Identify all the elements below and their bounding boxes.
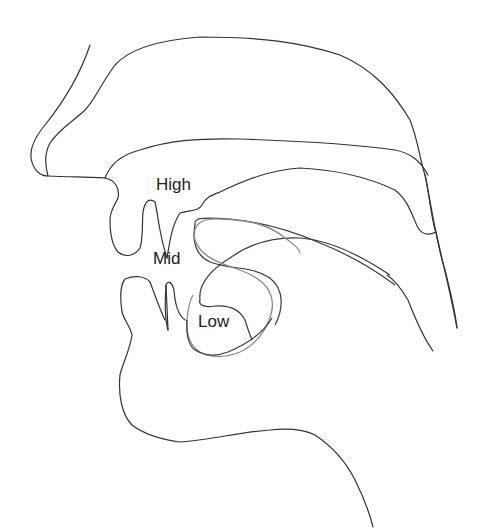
nasal-floor	[105, 139, 428, 178]
tongue-high-curve	[195, 218, 395, 285]
hard-palate	[167, 168, 436, 258]
label-high: High	[156, 176, 191, 193]
label-mid: Mid	[153, 250, 180, 267]
lower-lip	[165, 282, 185, 330]
vocal-tract-drawing	[0, 0, 494, 532]
velum	[425, 175, 435, 230]
tongue-high-front	[194, 225, 281, 325]
label-low: Low	[198, 313, 229, 330]
nasal-inner-line	[46, 37, 425, 176]
lower-lip-front	[120, 277, 374, 527]
tongue-mid-curve	[200, 238, 390, 300]
nose-outline	[31, 45, 105, 178]
vocal-tract-diagram: High Mid Low	[0, 0, 494, 532]
epiglottis-line	[436, 232, 457, 328]
pharynx-front-wall	[387, 275, 433, 351]
